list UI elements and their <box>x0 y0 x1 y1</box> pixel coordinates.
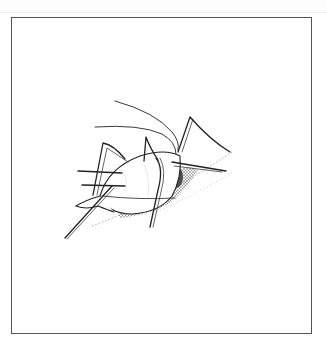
antennae <box>95 101 178 154</box>
figure-caption: Black-and-white line illustration of an … <box>0 340 327 341</box>
aphid-illustration-icon <box>0 0 327 352</box>
